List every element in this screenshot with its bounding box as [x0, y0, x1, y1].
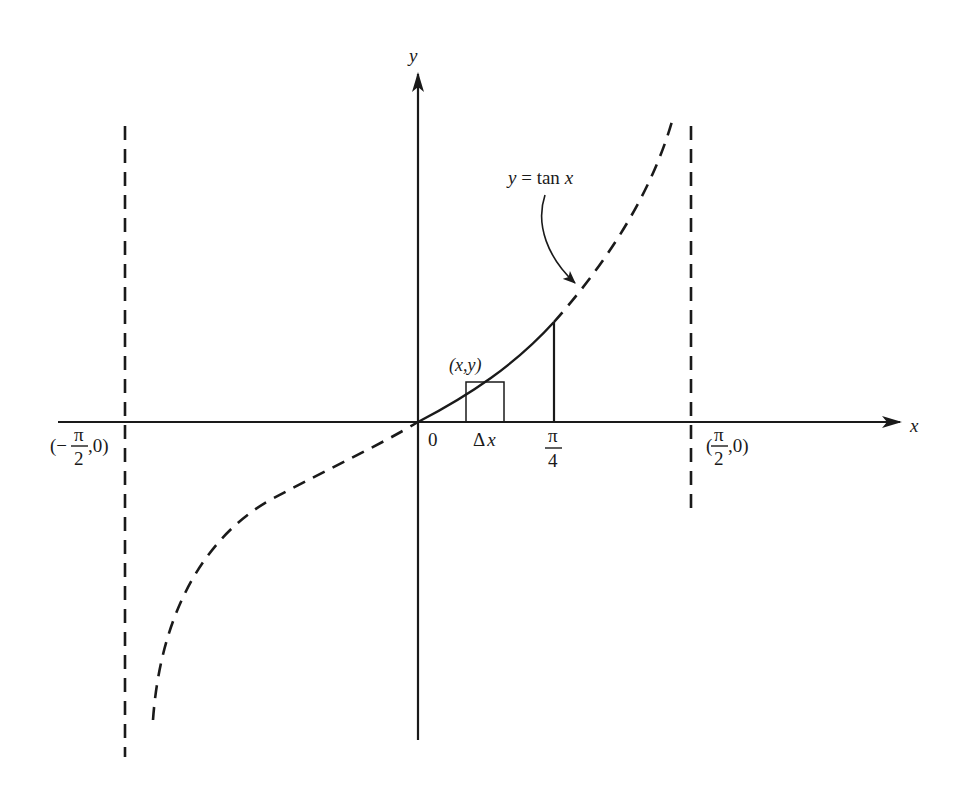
svg-text:(−: (− — [50, 435, 67, 457]
svg-text:π: π — [714, 424, 724, 445]
svg-text:,0): ,0) — [728, 435, 749, 457]
label-pointer-arrow — [542, 195, 575, 283]
tan-curve-dashed-right — [554, 118, 673, 322]
y-axis-label: y — [407, 45, 418, 66]
origin-label: 0 — [428, 429, 438, 450]
delta-x-label: Δx — [473, 429, 496, 450]
pi-quarter-label: π 4 — [545, 425, 562, 471]
left-asymptote-label: (− π 2 ,0) — [50, 424, 109, 469]
right-asymptote-label: ( π 2 ,0) — [706, 424, 749, 469]
tan-curve-dashed-left — [153, 422, 418, 720]
curve-label: y = tan x — [506, 167, 574, 188]
svg-text:,0): ,0) — [88, 435, 109, 457]
svg-text:4: 4 — [548, 450, 558, 471]
svg-text:π: π — [74, 424, 84, 445]
x-axis-label: x — [909, 415, 919, 436]
tangent-diagram: y x y = tan x 0 (x,y) Δx π 4 (− π 2 ,0) … — [0, 0, 965, 789]
tan-curve-solid — [418, 322, 554, 422]
svg-text:π: π — [548, 425, 558, 446]
point-label: (x,y) — [449, 355, 481, 376]
svg-text:2: 2 — [74, 448, 84, 469]
svg-text:2: 2 — [714, 448, 724, 469]
delta-x-rectangle — [466, 382, 504, 422]
